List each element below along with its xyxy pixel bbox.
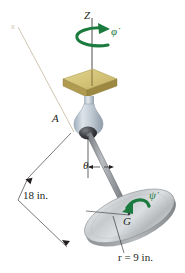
- label-z-axis: Z: [84, 10, 90, 21]
- label-mass-center: G: [123, 216, 131, 227]
- label-pivot-a: A: [52, 113, 59, 124]
- label-theta: θ: [83, 160, 88, 171]
- mechanics-figure: Z x φ̇ A θ 18 in. ψ̇ G r = 9 in.: [0, 0, 185, 273]
- label-precession-rate: φ̇: [111, 26, 117, 37]
- gimbal-plate: [63, 69, 117, 97]
- label-disk-radius: r = 9 in.: [118, 252, 153, 263]
- label-spin-rate: ψ̇: [149, 190, 156, 201]
- theta-angle-marker: [88, 165, 114, 169]
- precession-arrow-icon: [77, 23, 110, 46]
- label-rod-length: 18 in.: [23, 190, 48, 201]
- label-x-axis: x: [11, 23, 15, 31]
- figure-canvas: [0, 0, 185, 273]
